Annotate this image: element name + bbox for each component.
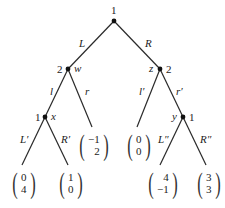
x-player-label: 1 [35, 112, 41, 123]
y-player-label: 1 [189, 112, 195, 123]
x-name-label: x [51, 111, 56, 122]
right-paren: ) [145, 130, 151, 160]
node-w [66, 67, 71, 72]
payoff-p1: −1 [88, 133, 100, 145]
left-paren: ( [148, 168, 154, 198]
node-y [181, 115, 186, 120]
left-paren: ( [79, 130, 85, 160]
payoff-vector: ( 04 ) [10, 168, 38, 198]
node-root [112, 19, 117, 24]
y-name-label: y [172, 111, 177, 122]
left-paren: ( [197, 168, 203, 198]
node-z [158, 67, 163, 72]
payoff-vector: ( −12 ) [77, 130, 111, 160]
edge-label-R-prime: R′ [61, 134, 70, 145]
right-paren: ) [215, 168, 221, 198]
payoff-vector: ( 10 ) [57, 168, 85, 198]
payoff-p2: 3 [206, 183, 212, 195]
z-player-label: 2 [166, 64, 172, 75]
edge-label-R-dprime: R″ [200, 134, 211, 145]
edge-label-l-prime: l′ [139, 86, 144, 97]
root-player-label: 1 [111, 5, 117, 16]
edge-label-L-prime: L′ [20, 134, 29, 145]
payoff-vector: ( 4−1 ) [146, 168, 180, 198]
payoff-vector: ( 33 ) [195, 168, 223, 198]
w-player-label: 2 [57, 64, 63, 75]
payoff-p1: 3 [206, 171, 212, 183]
left-paren: ( [59, 168, 65, 198]
node-x [43, 115, 48, 120]
edge-label-L: L [79, 38, 85, 49]
right-paren: ) [77, 168, 83, 198]
right-paren: ) [172, 168, 178, 198]
left-paren: ( [127, 130, 133, 160]
payoff-p1: 1 [68, 171, 74, 183]
edge-label-r-prime: r′ [176, 86, 183, 97]
right-paren: ) [103, 130, 109, 160]
payoff-p2: −1 [157, 183, 169, 195]
edge-R [114, 21, 160, 69]
payoff-p2: 0 [136, 145, 142, 157]
edge-label-L-dprime: L″ [158, 134, 169, 145]
payoff-p1: 0 [21, 171, 27, 183]
payoff-p2: 4 [21, 183, 27, 195]
edge-label-r: r [85, 86, 89, 97]
edge-r [68, 69, 92, 127]
right-paren: ) [30, 168, 36, 198]
edge-label-l: l [50, 86, 53, 97]
edge-l-prime [137, 69, 160, 127]
payoff-p2: 0 [68, 183, 74, 195]
edge-label-R: R [145, 38, 152, 49]
z-name-label: z [149, 63, 153, 74]
edge-l [45, 69, 68, 117]
payoff-p2: 2 [94, 145, 100, 157]
payoff-p1: 0 [136, 133, 142, 145]
payoff-vector: ( 00 ) [125, 130, 153, 160]
payoff-p1: 4 [163, 171, 169, 183]
w-name-label: w [74, 63, 81, 74]
left-paren: ( [12, 168, 18, 198]
